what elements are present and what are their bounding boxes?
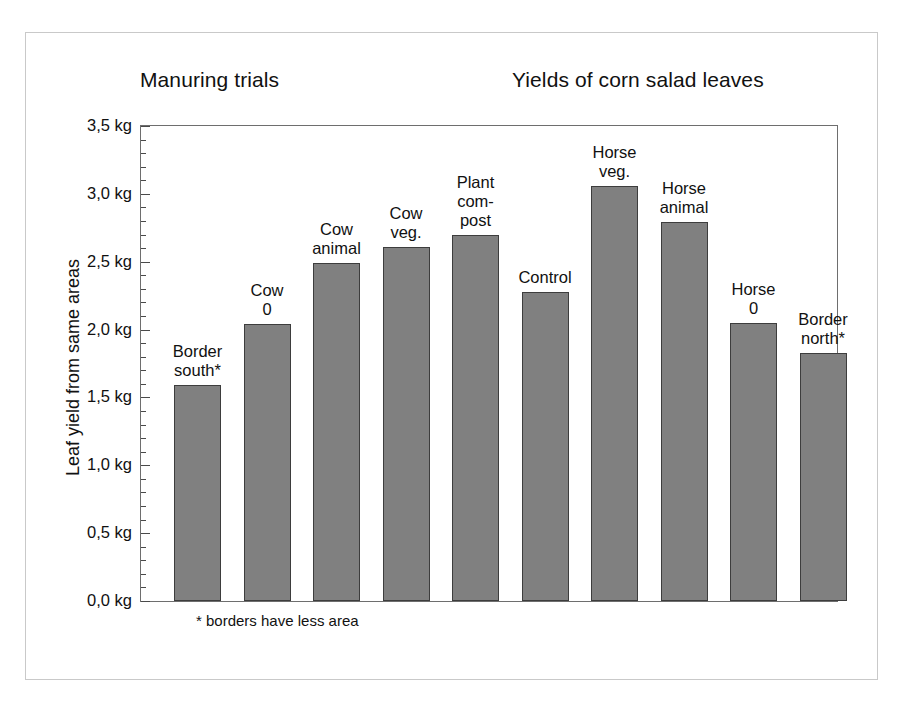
bar-category-label: Plant com- post	[429, 173, 522, 230]
y-axis-minor-tick	[141, 370, 146, 371]
y-axis-minor-tick	[141, 343, 146, 344]
y-axis-tick-label: 0,0 kg	[87, 591, 132, 610]
y-axis-minor-tick	[141, 221, 146, 222]
bar	[244, 324, 291, 601]
bar	[800, 353, 847, 601]
bar	[383, 247, 430, 601]
y-axis-tick-label: 2,5 kg	[87, 251, 132, 270]
y-axis-minor-tick	[141, 520, 146, 521]
chart-page: Manuring trials Yields of corn salad lea…	[0, 0, 905, 715]
footnote-text: * borders have less area	[196, 612, 359, 629]
y-axis-minor-tick	[141, 289, 146, 290]
y-axis-tick-label: 3,0 kg	[87, 183, 132, 202]
y-axis-minor-tick	[141, 479, 146, 480]
y-axis-minor-tick	[141, 506, 146, 507]
y-axis-major-tick	[141, 601, 150, 602]
bar-category-label: Cow 0	[221, 281, 314, 319]
y-axis-minor-tick	[141, 180, 146, 181]
chart-subtitle-left: Manuring trials	[140, 68, 279, 92]
bar	[661, 222, 708, 601]
bar-category-label: Horse animal	[638, 179, 731, 217]
y-axis-tick-labels: 3,5 kg3,0 kg2,5 kg2,0 kg1,5 kg1,0 kg0,5 …	[56, 125, 132, 600]
y-axis-minor-tick	[141, 411, 146, 412]
y-axis-minor-tick	[141, 492, 146, 493]
y-axis-minor-tick	[141, 207, 146, 208]
y-axis-major-tick	[141, 465, 150, 466]
y-axis-minor-tick	[141, 357, 146, 358]
y-axis-minor-tick	[141, 560, 146, 561]
bar-category-label: Control	[499, 268, 592, 287]
bar	[730, 323, 777, 601]
y-axis-minor-tick	[141, 140, 146, 141]
y-axis-major-tick	[141, 330, 150, 331]
y-axis-major-tick	[141, 533, 150, 534]
y-axis-tick-label: 1,0 kg	[87, 455, 132, 474]
y-axis-minor-tick	[141, 275, 146, 276]
y-axis-minor-tick	[141, 248, 146, 249]
bar	[174, 385, 221, 601]
y-axis-tick-label: 0,5 kg	[87, 523, 132, 542]
bar-category-label: Border north*	[777, 310, 870, 348]
bar	[452, 235, 499, 601]
bar-category-label: Border south*	[151, 342, 244, 380]
y-axis-minor-tick	[141, 235, 146, 236]
plot-area: Border south*Cow 0Cow animalCow veg.Plan…	[140, 125, 838, 602]
bar	[591, 186, 638, 601]
bar-category-label: Horse veg.	[568, 143, 661, 181]
bar	[522, 292, 569, 601]
chart-title-right: Yields of corn salad leaves	[512, 68, 764, 92]
y-axis-minor-tick	[141, 438, 146, 439]
y-axis-minor-tick	[141, 167, 146, 168]
y-axis-minor-tick	[141, 547, 146, 548]
y-axis-major-tick	[141, 126, 150, 127]
y-axis-tick-label: 1,5 kg	[87, 387, 132, 406]
y-axis-tick-label: 2,0 kg	[87, 319, 132, 338]
y-axis-minor-tick	[141, 574, 146, 575]
y-axis-major-tick	[141, 397, 150, 398]
y-axis-minor-tick	[141, 452, 146, 453]
y-axis-minor-tick	[141, 302, 146, 303]
y-axis-major-tick	[141, 194, 150, 195]
y-axis-minor-tick	[141, 153, 146, 154]
bar	[313, 263, 360, 601]
y-axis-major-tick	[141, 262, 150, 263]
y-axis-minor-tick	[141, 587, 146, 588]
y-axis-minor-tick	[141, 316, 146, 317]
y-axis-minor-tick	[141, 425, 146, 426]
y-axis-minor-tick	[141, 384, 146, 385]
y-axis-tick-label: 3,5 kg	[87, 116, 132, 135]
